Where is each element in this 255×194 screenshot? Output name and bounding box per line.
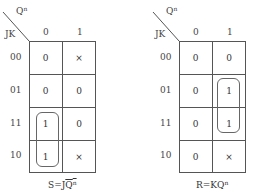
- row-label-11: 11: [10, 119, 21, 128]
- col-label-0: 0: [43, 28, 49, 37]
- row-label-11: 11: [160, 119, 171, 128]
- kmap-cell: 0: [179, 74, 212, 107]
- kmap-cell: 0: [62, 107, 96, 140]
- row-label-01: 01: [10, 86, 21, 95]
- equation-label: R=KQn: [196, 180, 228, 190]
- row-label-01: 01: [160, 86, 171, 95]
- var-top-label: Qn: [166, 7, 177, 16]
- kmap-cell: 0: [179, 140, 212, 173]
- row-label-00: 00: [160, 53, 171, 62]
- kmap-cell: 0: [29, 74, 62, 107]
- kmap-cell: 0: [179, 41, 212, 74]
- kmap-cell: ×: [62, 140, 96, 173]
- row-label-10: 10: [160, 151, 171, 160]
- col-label-1: 1: [227, 28, 233, 37]
- karnaugh-map-s: Qn JK 0 1 00 01 11 10 0 × 0 0 1 0 1 × S=…: [0, 0, 128, 194]
- kmap-cell: 0: [62, 74, 96, 107]
- kmap-cell: ×: [62, 41, 96, 74]
- kmap-cell: ×: [212, 140, 246, 173]
- kmap-cell: 0: [29, 41, 62, 74]
- grouping-loop: [217, 78, 240, 133]
- kmap-cell: 0: [212, 41, 246, 74]
- row-label-10: 10: [10, 151, 21, 160]
- row-label-00: 00: [10, 53, 21, 62]
- var-left-label: JK: [155, 30, 165, 39]
- equation-label: S=JQn: [48, 180, 77, 190]
- var-top-label: Qn: [16, 7, 27, 16]
- karnaugh-map-r: Qn JK 0 1 00 01 11 10 0 0 0 1 0 1 0 × R=…: [150, 0, 255, 194]
- grouping-loop: [36, 112, 59, 167]
- col-label-0: 0: [193, 28, 199, 37]
- col-label-1: 1: [77, 28, 83, 37]
- var-left-label: JK: [5, 30, 15, 39]
- kmap-cell: 0: [179, 107, 212, 140]
